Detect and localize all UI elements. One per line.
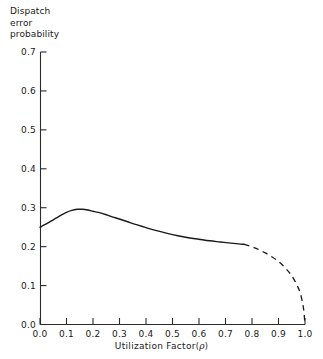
x-tick-label: 0.2 [86,329,101,339]
x-axis-label-paren-close: ) [205,342,208,351]
x-tick-mark-group [40,318,305,325]
data-curve-solid [40,209,244,244]
x-tick-label: 0.3 [112,329,127,339]
data-curve-dashed [244,244,305,324]
chart-figure: Dispatch error probability 0.00.10.20.30… [0,0,323,359]
x-tick-label: 0.8 [245,329,260,339]
x-tick-label: 0.5 [165,329,180,339]
y-tick-label: 0.4 [21,164,36,174]
y-tick-label-group: 0.00.10.20.30.40.50.60.7 [21,47,36,330]
x-tick-label: 0.7 [218,329,233,339]
y-tick-label: 0.2 [21,242,36,252]
x-tick-label: 0.9 [271,329,286,339]
x-tick-label: 0.1 [59,329,74,339]
x-tick-label: 1.0 [298,329,313,339]
y-tick-mark-group [41,52,47,325]
x-axis-label: Utilization Factor(ρ) [0,341,323,351]
x-tick-label: 0.6 [192,329,207,339]
y-tick-label: 0.5 [21,125,36,135]
y-tick-label: 0.6 [21,86,36,96]
y-tick-label: 0.1 [21,281,36,291]
plot-area: 0.00.10.20.30.40.50.60.7 0.00.10.20.30.4… [0,0,323,359]
x-tick-label-group: 0.00.10.20.30.40.50.60.70.80.91.0 [33,329,313,339]
x-axis-label-text: Utilization Factor [115,341,196,351]
y-tick-label: 0.3 [21,203,36,213]
x-tick-label: 0.4 [139,329,154,339]
y-tick-label: 0.7 [21,47,36,57]
x-tick-label: 0.0 [33,329,48,339]
